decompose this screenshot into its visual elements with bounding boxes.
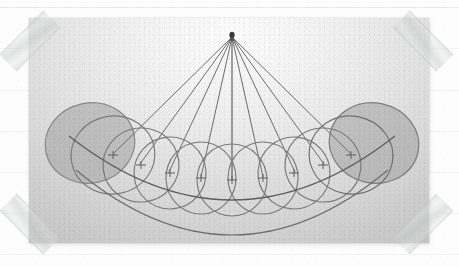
pendulum-photograph — [29, 18, 429, 243]
photo-grain-texture — [29, 18, 429, 243]
page-root — [0, 0, 459, 267]
